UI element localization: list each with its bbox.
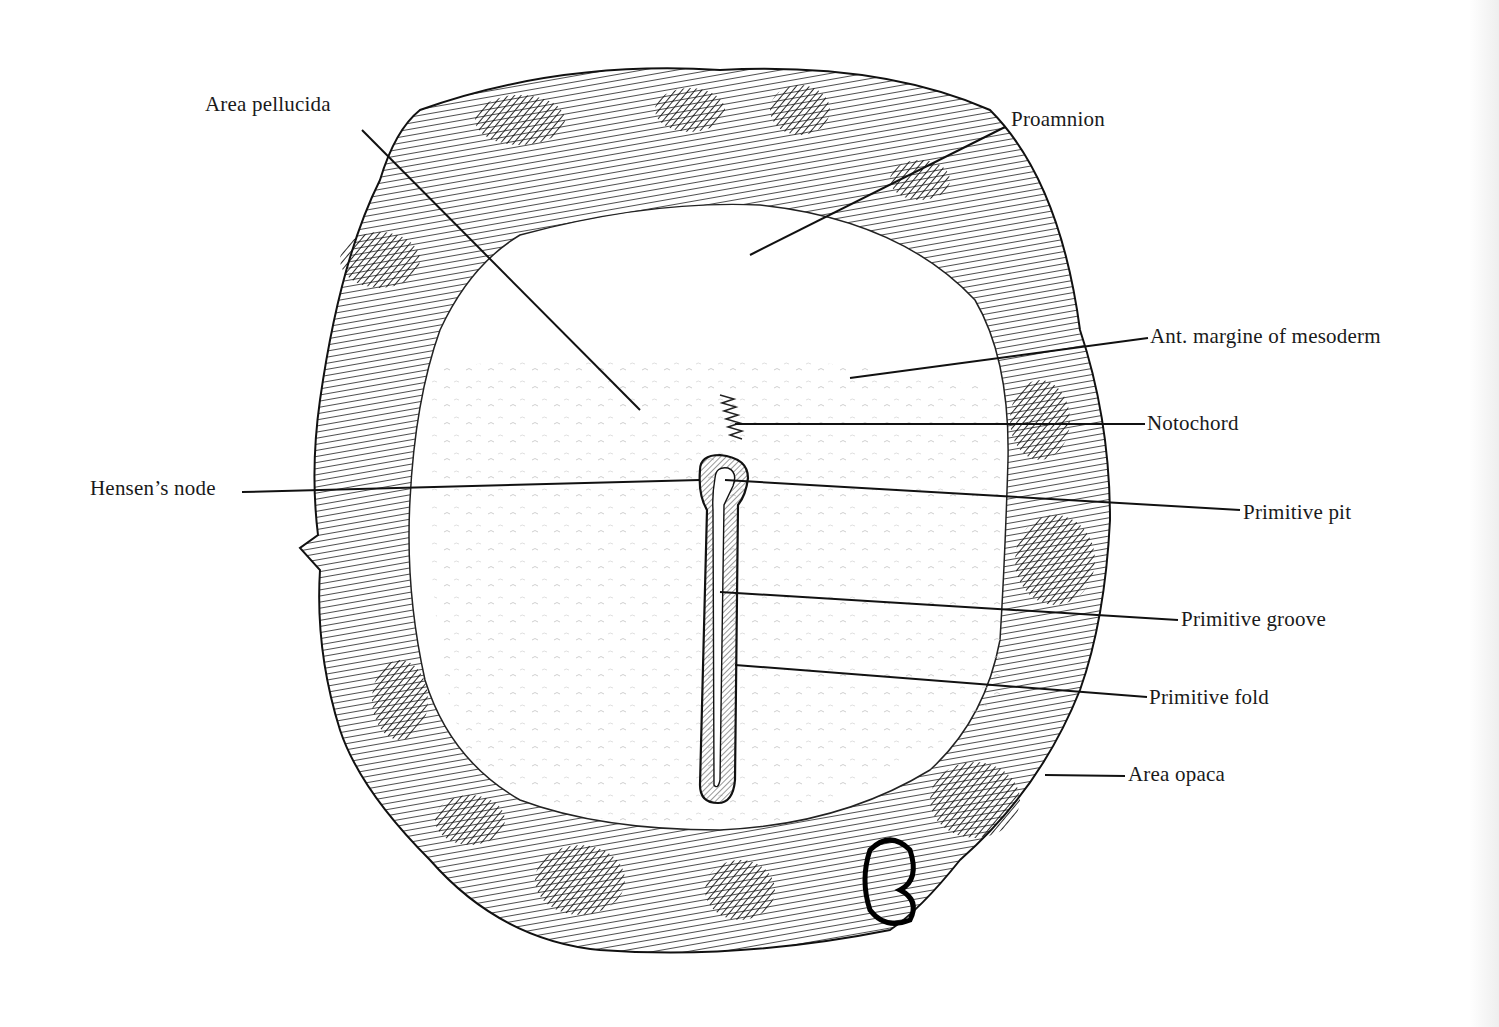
page-edge-shadow <box>1469 0 1499 1027</box>
label-proamnion: Proamnion <box>1011 107 1105 132</box>
label-primitive-fold: Primitive fold <box>1149 685 1269 710</box>
label-ant-margin-mesoderm: Ant. margine of mesoderm <box>1150 324 1381 349</box>
label-hensens-node: Hensen’s node <box>90 476 216 501</box>
label-area-opaca: Area opaca <box>1128 762 1225 787</box>
label-area-pellucida: Area pellucida <box>205 92 331 117</box>
label-primitive-pit: Primitive pit <box>1243 500 1351 525</box>
label-notochord: Notochord <box>1147 411 1239 436</box>
label-primitive-groove: Primitive groove <box>1181 607 1326 632</box>
